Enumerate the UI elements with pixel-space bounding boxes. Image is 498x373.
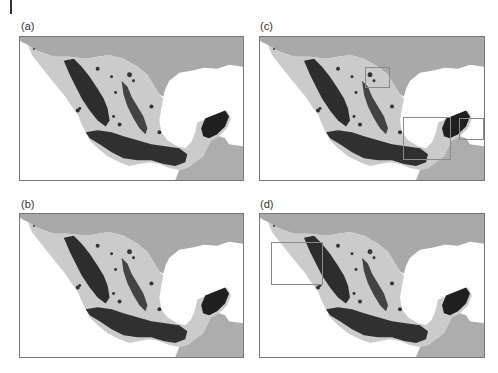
highlight-box-baja-gulf bbox=[271, 242, 323, 285]
map-panel-b bbox=[19, 213, 244, 358]
panel-label-d: (d) bbox=[260, 198, 273, 210]
mexico-map-graphic bbox=[260, 214, 484, 357]
panel-label-c: (c) bbox=[260, 20, 273, 32]
map-panel-d bbox=[259, 213, 485, 358]
highlight-box-northeast bbox=[365, 67, 390, 88]
mexico-map-graphic bbox=[20, 37, 243, 180]
panel-label-b: (b) bbox=[21, 198, 34, 210]
map-panel-a bbox=[19, 36, 244, 181]
page-margin-rule bbox=[10, 0, 12, 14]
highlight-box-yucatan bbox=[459, 118, 484, 140]
highlight-box-gulf bbox=[403, 117, 451, 160]
mexico-map-graphic bbox=[20, 214, 243, 357]
map-panel-c bbox=[259, 36, 485, 181]
panel-label-a: (a) bbox=[21, 20, 34, 32]
